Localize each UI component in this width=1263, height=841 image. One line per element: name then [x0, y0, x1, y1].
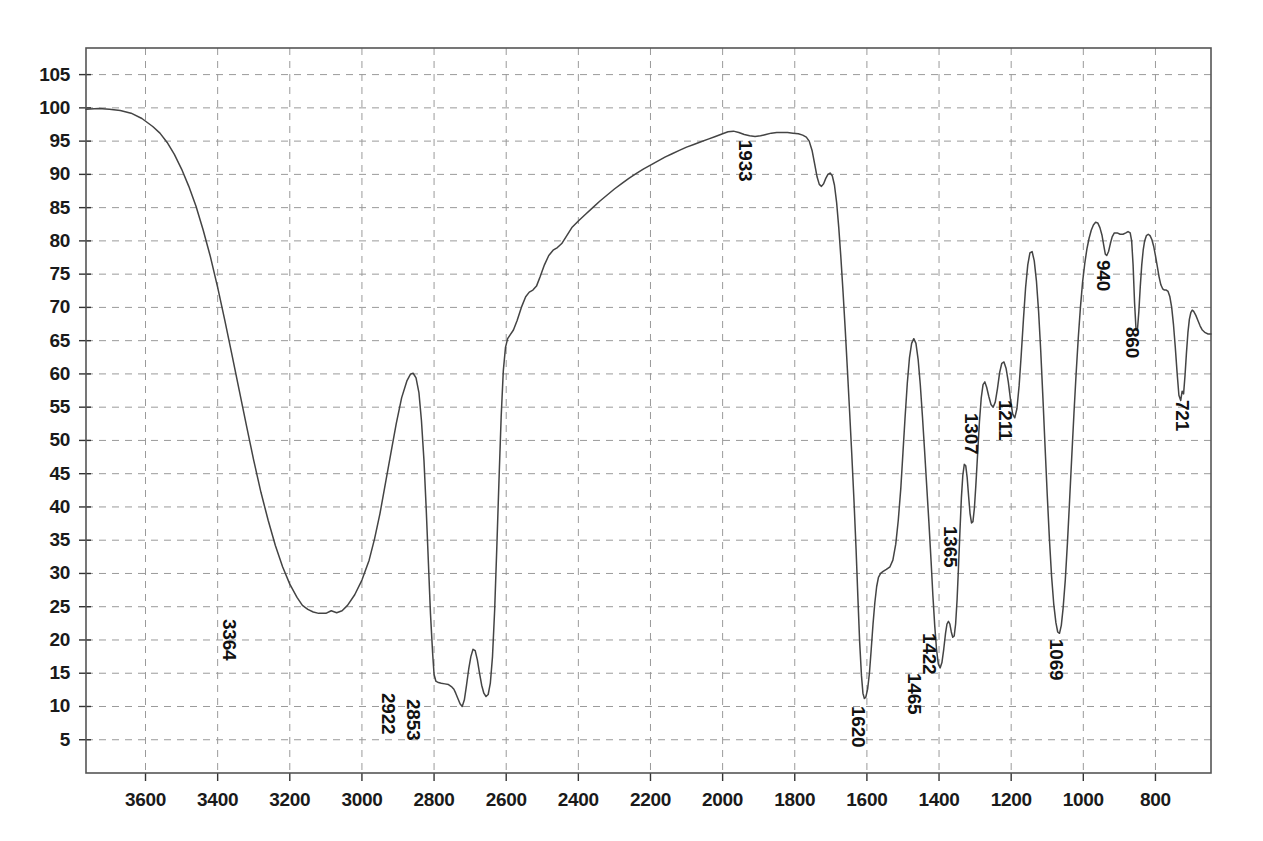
- y-axis-tick-label: 5: [24, 729, 70, 751]
- peak-label-721: 721: [1171, 400, 1193, 431]
- y-axis-tick-label: 105: [24, 64, 70, 86]
- y-axis-tick-label: 40: [24, 496, 70, 518]
- y-axis-tick-label: 55: [24, 396, 70, 418]
- peak-label-1422: 1422: [918, 633, 940, 674]
- x-axis-tick-label: 3200: [255, 789, 325, 811]
- peak-label-1465: 1465: [903, 673, 925, 714]
- y-axis-tick-label: 75: [24, 263, 70, 285]
- y-axis-tick-label: 30: [24, 562, 70, 584]
- x-axis-tick-label: 3400: [183, 789, 253, 811]
- peak-label-1307: 1307: [960, 413, 982, 454]
- peak-label-1211: 1211: [994, 400, 1016, 440]
- x-axis-tick-label: 800: [1120, 789, 1190, 811]
- ir-spectrum-chart: 5101520253035404550556065707580859095100…: [0, 0, 1263, 841]
- x-axis-tick-label: 3600: [111, 789, 181, 811]
- x-axis-tick-label: 1200: [976, 789, 1046, 811]
- spectrum-plot-area: [0, 0, 1263, 841]
- y-axis-tick-label: 65: [24, 330, 70, 352]
- y-axis-tick-label: 80: [24, 230, 70, 252]
- y-axis-tick-label: 25: [24, 596, 70, 618]
- x-axis-tick-label: 2600: [471, 789, 541, 811]
- peak-label-2853: 2853: [402, 699, 424, 740]
- y-axis-tick-label: 70: [24, 296, 70, 318]
- y-axis-tick-label: 85: [24, 197, 70, 219]
- x-axis-tick-label: 1000: [1048, 789, 1118, 811]
- peak-label-1933: 1933: [734, 140, 756, 181]
- y-axis-tick-label: 35: [24, 529, 70, 551]
- y-axis-tick-label: 90: [24, 163, 70, 185]
- x-axis-tick-label: 2200: [615, 789, 685, 811]
- y-axis-tick-label: 50: [24, 429, 70, 451]
- y-axis-tick-label: 45: [24, 463, 70, 485]
- y-axis-tick-label: 20: [24, 629, 70, 651]
- x-axis-tick-label: 2000: [688, 789, 758, 811]
- y-axis-tick-label: 95: [24, 130, 70, 152]
- x-axis-tick-label: 2400: [543, 789, 613, 811]
- y-axis-tick-label: 60: [24, 363, 70, 385]
- peak-label-1069: 1069: [1045, 639, 1067, 680]
- peak-label-1365: 1365: [939, 526, 961, 567]
- peak-label-940: 940: [1092, 260, 1114, 291]
- x-axis-tick-label: 1400: [904, 789, 974, 811]
- x-axis-tick-label: 1600: [832, 789, 902, 811]
- x-axis-tick-label: 1800: [760, 789, 830, 811]
- y-axis-tick-label: 100: [24, 97, 70, 119]
- y-axis-tick-label: 10: [24, 695, 70, 717]
- x-axis-tick-label: 2800: [399, 789, 469, 811]
- peak-label-860: 860: [1121, 327, 1143, 358]
- peak-label-3364: 3364: [218, 619, 240, 660]
- peak-label-2922: 2922: [377, 693, 399, 734]
- y-axis-tick-label: 15: [24, 662, 70, 684]
- plot-frame: [86, 48, 1211, 773]
- peak-label-1620: 1620: [847, 706, 869, 747]
- x-axis-tick-label: 3000: [327, 789, 397, 811]
